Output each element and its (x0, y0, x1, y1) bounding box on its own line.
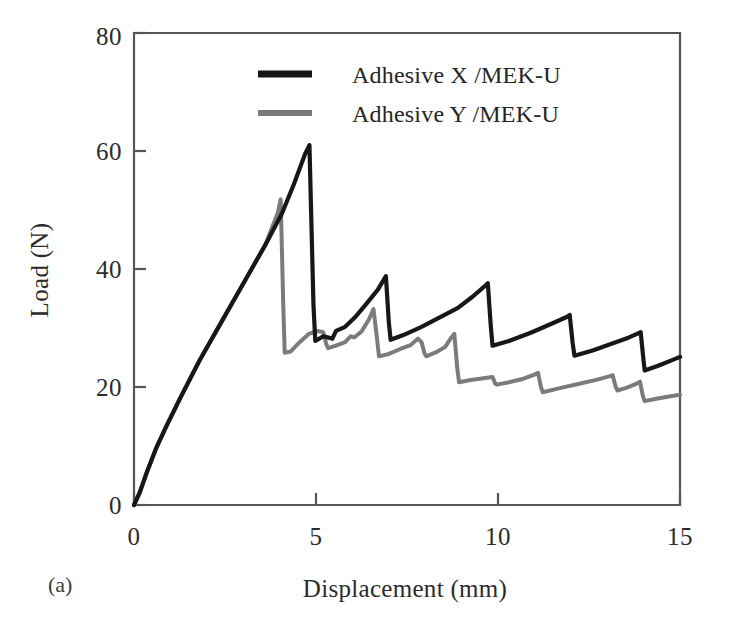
figure-container: 0 20 40 60 80 0 5 10 15 Displacement (mm… (0, 0, 729, 631)
x-axis-title: Displacement (mm) (303, 575, 507, 603)
legend-label-adhesive-y: Adhesive Y /MEK-U (352, 101, 559, 127)
y-axis-title: Load (N) (26, 223, 54, 318)
x-tick-labels: 0 5 10 15 (128, 523, 694, 550)
y-tick-labels: 0 20 40 60 80 (96, 23, 122, 519)
load-displacement-chart: 0 20 40 60 80 0 5 10 15 Displacement (mm… (0, 0, 729, 631)
x-tick-label-0: 0 (128, 523, 141, 550)
y-tick-label-60: 60 (96, 138, 122, 165)
x-tick-label-10: 10 (485, 523, 511, 550)
y-tick-label-20: 20 (96, 374, 122, 401)
x-tick-label-15: 15 (667, 523, 693, 550)
y-axis-ticks (134, 33, 146, 505)
legend: Adhesive X /MEK-U Adhesive Y /MEK-U (258, 62, 561, 127)
legend-label-adhesive-x: Adhesive X /MEK-U (352, 62, 561, 88)
y-tick-label-40: 40 (96, 256, 122, 283)
series-group (134, 145, 680, 505)
y-tick-label-0: 0 (109, 492, 122, 519)
x-tick-label-5: 5 (310, 523, 323, 550)
y-tick-label-80: 80 (96, 23, 122, 50)
series-line-adhesive-y (134, 199, 680, 505)
x-axis-ticks (134, 493, 680, 505)
series-line-adhesive-x (134, 145, 680, 505)
panel-label: (a) (48, 572, 72, 597)
